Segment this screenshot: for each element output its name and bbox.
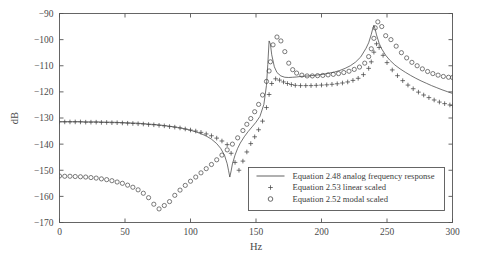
marker-plus (277, 78, 282, 83)
marker-circle (363, 61, 367, 65)
marker-plus (406, 83, 411, 88)
legend-label-1: Equation 2.53 linear scaled (293, 182, 387, 192)
marker-plus (309, 83, 314, 88)
marker-circle (146, 196, 150, 200)
marker-circle (162, 203, 166, 207)
legend: Equation 2.48 analog frequency responseE… (249, 168, 445, 211)
marker-plus (248, 141, 253, 146)
marker-circle (249, 116, 253, 120)
marker-circle (336, 71, 340, 75)
marker-circle (367, 55, 371, 59)
marker-plus (199, 130, 204, 135)
x-axis-label: Hz (250, 241, 263, 252)
marker-circle (89, 175, 93, 179)
marker-plus (152, 122, 157, 127)
marker-circle (372, 36, 376, 40)
marker-circle (342, 70, 346, 74)
marker-circle (230, 142, 234, 146)
marker-plus (136, 121, 141, 126)
chart-svg: 050100150200250300−90−100−110−120−130−14… (0, 0, 478, 270)
marker-plus (411, 86, 416, 91)
marker-plus (314, 83, 319, 88)
marker-circle (220, 153, 224, 157)
marker-plus (281, 80, 286, 85)
y-axis-label: dB (9, 112, 20, 124)
marker-plus (267, 92, 272, 97)
marker-circle (415, 64, 419, 68)
marker-plus (324, 83, 329, 88)
x-tick-label: 200 (314, 227, 329, 237)
marker-plus (432, 98, 437, 103)
x-tick-label: 300 (445, 227, 460, 237)
marker-circle (283, 50, 287, 54)
marker-plus (390, 68, 395, 73)
marker-plus (110, 120, 115, 125)
marker-plus (293, 83, 298, 88)
marker-plus (369, 60, 374, 65)
marker-plus (319, 83, 324, 88)
marker-circle (178, 188, 182, 192)
marker-plus (340, 81, 345, 86)
marker-plus (448, 103, 453, 108)
marker-circle (183, 183, 187, 187)
marker-circle (389, 38, 393, 42)
series-0 (60, 25, 453, 177)
marker-circle (167, 200, 171, 204)
marker-plus (252, 135, 257, 140)
marker-circle (436, 73, 440, 77)
marker-circle (157, 207, 161, 211)
marker-plus (400, 78, 405, 83)
marker-plus (361, 72, 366, 77)
marker-plus (264, 105, 269, 110)
y-tick-label: −140 (34, 140, 54, 150)
marker-circle (376, 20, 380, 24)
marker-circle (236, 136, 240, 140)
marker-plus (437, 100, 442, 105)
marker-plus (450, 103, 455, 108)
marker-plus (241, 159, 246, 164)
marker-plus (183, 127, 188, 132)
marker-circle (225, 148, 229, 152)
y-tick-label: −170 (34, 218, 54, 228)
marker-circle (441, 74, 445, 78)
marker-plus (237, 168, 242, 173)
marker-plus (416, 90, 421, 95)
y-tick-label: −110 (34, 61, 54, 71)
marker-circle (352, 67, 356, 71)
y-tick-label: −130 (34, 113, 54, 123)
marker-plus (269, 81, 274, 86)
marker-circle (260, 93, 264, 97)
marker-circle (110, 179, 114, 183)
marker-plus (385, 60, 390, 65)
marker-plus (351, 78, 356, 83)
marker-plus (356, 76, 361, 81)
y-tick-label: −120 (34, 87, 54, 97)
marker-plus (94, 120, 99, 125)
marker-plus (366, 66, 371, 71)
x-tick-label: 150 (249, 227, 264, 237)
marker-circle (315, 74, 319, 78)
marker-circle (279, 39, 283, 43)
marker-circle (426, 69, 430, 73)
marker-circle (394, 44, 398, 48)
marker-circle (105, 178, 109, 182)
marker-circle (271, 43, 275, 47)
marker-plus (188, 128, 193, 133)
marker-circle (68, 174, 72, 178)
marker-plus (167, 124, 172, 129)
marker-circle (446, 75, 450, 79)
marker-circle (152, 202, 156, 206)
marker-circle (199, 171, 203, 175)
marker-circle (173, 193, 177, 197)
marker-circle (291, 68, 295, 72)
marker-plus (256, 127, 261, 132)
marker-plus (229, 151, 234, 156)
marker-plus (395, 73, 400, 78)
marker-circle (431, 71, 435, 75)
x-tick-label: 250 (380, 227, 395, 237)
marker-plus (298, 83, 303, 88)
marker-circle (405, 56, 409, 60)
marker-plus (62, 120, 67, 125)
marker-circle (331, 72, 335, 76)
marker-plus (335, 81, 340, 86)
